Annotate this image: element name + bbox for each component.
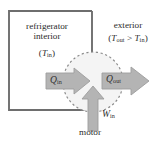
work-in-subscript: in (110, 112, 115, 119)
refrigerator-thermodynamics-diagram: refrigerator interior (Tin) exterior (To… (0, 0, 167, 148)
work-in-symbol: W (102, 108, 110, 119)
heat-out-subscript: out (113, 77, 121, 84)
interior-temperature-label: (Tin) (22, 49, 72, 59)
interior-temp-paren-close: ) (52, 48, 55, 58)
exterior-temperature-label: (Tout > Tin) (93, 34, 163, 44)
motor-label: motor (65, 128, 115, 138)
heat-in-label: Qin (50, 74, 62, 85)
heat-out-label: Qout (106, 73, 121, 84)
heat-out-symbol: Q (106, 73, 113, 84)
motor-text: motor (79, 127, 101, 137)
exterior-temp-paren-close: ) (145, 33, 148, 43)
exterior-temp-out-subscript: out (116, 36, 124, 43)
work-in-label: Win (102, 108, 115, 119)
refrigerator-interior-label: refrigerator interior (14, 22, 80, 42)
refrigerator-interior-line1: refrigerator (26, 21, 68, 31)
heat-in-symbol: Q (50, 74, 57, 85)
exterior-label: exterior (96, 21, 160, 31)
heat-in-subscript: in (57, 78, 62, 85)
refrigerator-interior-line2: interior (33, 31, 60, 41)
exterior-text: exterior (114, 20, 143, 30)
